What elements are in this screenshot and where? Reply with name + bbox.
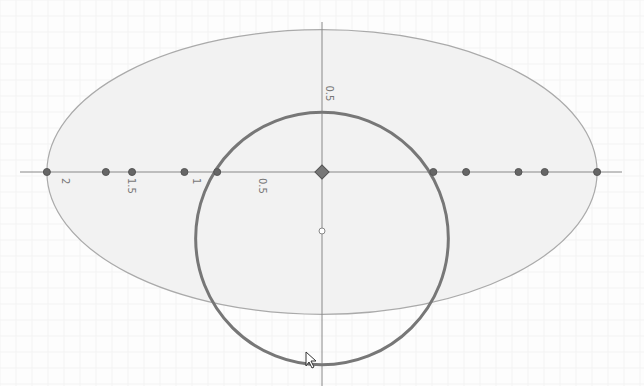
point[interactable] [214, 169, 221, 176]
x-tick-label: 2 [60, 178, 71, 184]
point[interactable] [181, 169, 188, 176]
point[interactable] [541, 169, 548, 176]
x-tick-label: 1 [191, 178, 202, 184]
point[interactable] [43, 169, 50, 176]
point[interactable] [594, 169, 601, 176]
point[interactable] [102, 169, 109, 176]
geometry-canvas[interactable]: 21.510.50.5 [0, 0, 644, 386]
point[interactable] [430, 169, 437, 176]
x-tick-label: 1.5 [126, 178, 137, 194]
y-tick-label: 0.5 [324, 86, 335, 102]
point[interactable] [463, 169, 470, 176]
x-tick-label: 0.5 [257, 178, 268, 194]
circle-center-point[interactable] [319, 228, 325, 234]
point[interactable] [515, 169, 522, 176]
point[interactable] [129, 169, 136, 176]
